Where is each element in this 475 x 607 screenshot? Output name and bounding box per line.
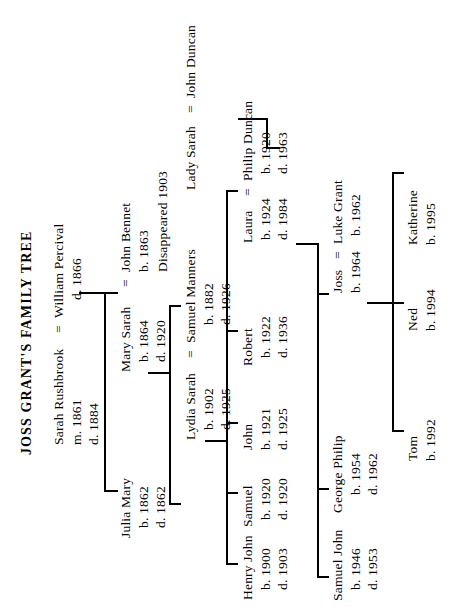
connector-gen2-stub (148, 372, 170, 374)
mary-sarah-birth: b. 1864 (137, 320, 151, 362)
node-john: John (241, 424, 255, 450)
george-philip-birth: b. 1954 (349, 453, 363, 495)
node-john-duncan: John Duncan (184, 25, 198, 98)
birth-year: b. 1994 (423, 289, 438, 331)
death-year: d. 1925 (275, 408, 290, 450)
marriage-equals-1: = (52, 325, 66, 333)
page-title: JOSS GRANT'S FAMILY TREE (20, 231, 34, 455)
birth-year: b. 1992 (423, 419, 438, 461)
node-samuel: Samuel (241, 485, 255, 527)
death-year: d. 1903 (275, 548, 290, 590)
connector-to-samuel-john (317, 576, 329, 578)
person-name: Lady Sarah (183, 126, 198, 190)
death-year: d. 1984 (275, 198, 290, 240)
connector-to-robert (226, 330, 238, 332)
connector-gen4-stub (296, 243, 318, 245)
john-bennet-note: Disappeared 1903 (156, 171, 170, 272)
death-year: d. 1920 (153, 320, 168, 362)
connector-gen5-stub (367, 302, 393, 304)
death-year: d. 1866 (69, 258, 84, 300)
death-year: d. 1963 (275, 132, 290, 174)
connector-to-george-philip (317, 488, 329, 490)
node-robert: Robert (241, 328, 255, 366)
marriage-equals-4: = (184, 105, 198, 113)
person-name: Philip Duncan (240, 101, 255, 181)
death-year: d. 1920 (275, 478, 290, 520)
henry-john-birth: b. 1900 (259, 548, 273, 590)
person-name: Katherine (405, 190, 420, 245)
person-name: Robert (240, 328, 255, 366)
node-john-bennet: John Bennet (119, 203, 133, 272)
person-name: Lydia Sarah (183, 373, 198, 440)
node-philip-duncan: Philip Duncan (241, 101, 255, 181)
node-samuel-john: Samuel John (331, 529, 345, 601)
person-name: Julia Mary (118, 478, 133, 538)
connector-to-henry-john (226, 563, 238, 565)
ned-birth: b. 1994 (424, 289, 438, 331)
connector-to-tom (392, 430, 404, 432)
person-name: Sarah Rushbrook (51, 349, 66, 445)
connector-to-ned (392, 302, 404, 304)
lydia-sarah-birth: b. 1902 (202, 388, 216, 430)
connector-to-joss (317, 293, 329, 295)
birth-year: b. 1921 (258, 408, 273, 450)
marriage-equals-2: = (119, 279, 133, 287)
william-percival-death: d. 1866 (70, 258, 84, 300)
george-philip-death: d. 1962 (366, 453, 380, 495)
node-samuel-manners: Samuel Manners (184, 249, 198, 343)
john-death: d. 1925 (276, 408, 290, 450)
connector-to-lydia-sarah-lower (169, 503, 181, 505)
connector-to-katherine (392, 172, 404, 174)
node-ned: Ned (406, 308, 420, 331)
person-name: Laura (240, 211, 255, 243)
death-year: d. 1953 (365, 548, 380, 590)
birth-year: b. 1954 (348, 453, 363, 495)
birth-year: b. 1902 (201, 388, 216, 430)
person-name: Samuel (240, 485, 255, 527)
samuel-death: d. 1920 (276, 478, 290, 520)
connector-to-laura (226, 190, 238, 192)
node-mary-sarah: Mary Sarah (119, 307, 133, 372)
person-name: John (240, 424, 255, 450)
node-tom: Tom (406, 436, 420, 461)
person-name: Luke Grant (330, 180, 345, 244)
node-william-percival: William Percival (52, 223, 66, 318)
death-year: d. 1862 (153, 486, 168, 528)
birth-year: b. 1995 (423, 203, 438, 245)
married-year: m. 1861 (69, 399, 84, 445)
marriage-equals-6: = (331, 251, 345, 259)
birth-year: b. 1900 (258, 548, 273, 590)
tom-birth: b. 1992 (424, 419, 438, 461)
samuel-manners-birth: b. 1882 (202, 283, 216, 325)
birth-year: b. 1962 (348, 194, 363, 236)
julia-mary-birth: b. 1862 (137, 486, 151, 528)
family-tree-page: JOSS GRANT'S FAMILY TREE Sarah Rushbrook… (0, 0, 475, 607)
death-year: d. 1925 (218, 388, 233, 430)
node-luke-grant: Luke Grant (331, 180, 345, 244)
connector-gen2-spine (104, 292, 106, 492)
birth-year: b. 1864 (136, 320, 151, 362)
luke-grant-birth: b. 1962 (349, 194, 363, 236)
samuel-birth: b. 1920 (259, 478, 273, 520)
samuel-john-death: d. 1953 (366, 548, 380, 590)
person-name: Samuel Manners (183, 249, 198, 343)
laura-birth: b. 1924 (259, 198, 273, 240)
birth-year: b. 1920 (258, 478, 273, 520)
mary-sarah-death: d. 1920 (154, 320, 168, 362)
birth-year: b. 1882 (201, 283, 216, 325)
birth-year: b. 1946 (348, 548, 363, 590)
joss-birth: b. 1964 (349, 251, 363, 293)
birth-year: b. 1922 (258, 316, 273, 358)
person-name: Samuel John (330, 529, 345, 601)
person-name: William Percival (51, 223, 66, 318)
samuel-manners-death: d. 1926 (219, 283, 233, 325)
philip-duncan-birth: b. 1920 (259, 132, 273, 174)
sarah-rushbrook-dates: m. 1861 (70, 399, 84, 445)
disappearance-note: Disappeared 1903 (155, 171, 170, 272)
birth-year: b. 1924 (258, 198, 273, 240)
death-year: d. 1884 (86, 403, 101, 445)
sarah-rushbrook-death: d. 1884 (87, 403, 101, 445)
person-name: Joss (330, 270, 345, 293)
node-laura: Laura (241, 211, 255, 243)
henry-john-death: d. 1903 (276, 548, 290, 590)
